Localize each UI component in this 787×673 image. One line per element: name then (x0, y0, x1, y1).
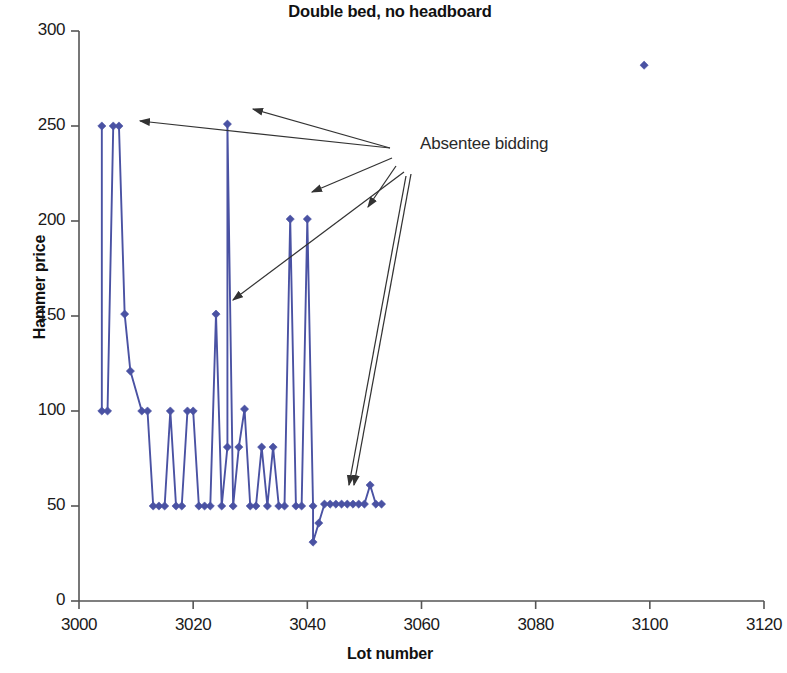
annotation-arrows (140, 109, 411, 485)
axes (71, 31, 764, 609)
annotation-label-absentee-bidding: Absentee bidding (420, 134, 548, 154)
data-series (98, 61, 648, 546)
